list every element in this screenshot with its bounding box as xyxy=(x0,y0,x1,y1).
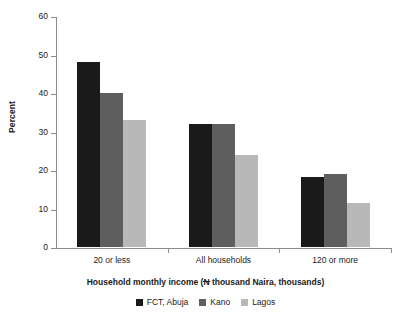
y-axis-tick-label: 50 xyxy=(39,50,48,60)
legend-swatch-icon xyxy=(241,299,248,306)
bar-group xyxy=(189,16,258,247)
legend-item[interactable]: Kano xyxy=(199,297,230,307)
plot-area: 6050403020100 20 or lessAll households12… xyxy=(56,17,391,248)
y-axis-tick: 20 xyxy=(51,171,56,172)
y-axis-tick: 0 xyxy=(51,248,56,249)
x-axis-separator-tick xyxy=(391,248,392,253)
bar-group xyxy=(77,16,146,247)
legend-swatch-icon xyxy=(199,299,206,306)
x-axis-title: Household monthly income (N thousand Nai… xyxy=(0,277,411,287)
legend-item[interactable]: FCT, Abuja xyxy=(136,297,189,307)
legend-item-label: Lagos xyxy=(252,297,275,307)
bar-chart: Percent 6050403020100 20 or lessAll hous… xyxy=(0,0,411,320)
bar xyxy=(324,174,347,247)
bar xyxy=(347,203,370,247)
y-axis-tick-label: 30 xyxy=(39,127,48,137)
legend: FCT, AbujaKanoLagos xyxy=(0,297,411,307)
bar xyxy=(77,62,100,247)
bar xyxy=(212,124,235,247)
legend-item[interactable]: Lagos xyxy=(241,297,275,307)
x-axis-category-label: 120 or more xyxy=(279,255,391,265)
legend-swatch-icon xyxy=(136,299,143,306)
bar xyxy=(189,124,212,247)
y-axis-tick: 30 xyxy=(51,133,56,134)
x-axis-title-prefix: Household monthly income ( xyxy=(87,277,204,287)
legend-item-label: Kano xyxy=(210,297,230,307)
y-axis-tick-label: 0 xyxy=(43,242,48,252)
bar xyxy=(235,155,258,247)
y-axis-title: Percent xyxy=(7,87,17,147)
bar xyxy=(100,93,123,247)
legend-item-label: FCT, Abuja xyxy=(147,297,189,307)
y-axis-tick: 40 xyxy=(51,94,56,95)
x-axis-category-label: 20 or less xyxy=(56,255,168,265)
naira-currency-symbol: N xyxy=(203,277,209,287)
bar xyxy=(123,120,146,247)
y-axis-tick-label: 40 xyxy=(39,88,48,98)
x-axis-separator-tick xyxy=(168,248,169,253)
y-axis-tick: 10 xyxy=(51,210,56,211)
y-axis-tick-label: 10 xyxy=(39,204,48,214)
x-axis-title-suffix: thousand Naira, thousands) xyxy=(210,277,325,287)
y-axis-tick-label: 60 xyxy=(39,11,48,21)
x-axis-category-label: All households xyxy=(168,255,280,265)
y-axis-tick: 60 xyxy=(51,17,56,18)
y-axis-tick-label: 20 xyxy=(39,165,48,175)
bar-group xyxy=(301,16,370,247)
y-axis-tick: 50 xyxy=(51,56,56,57)
bar xyxy=(301,177,324,247)
x-axis-separator-tick xyxy=(279,248,280,253)
x-axis-line xyxy=(56,248,391,249)
y-axis-line xyxy=(56,17,57,249)
